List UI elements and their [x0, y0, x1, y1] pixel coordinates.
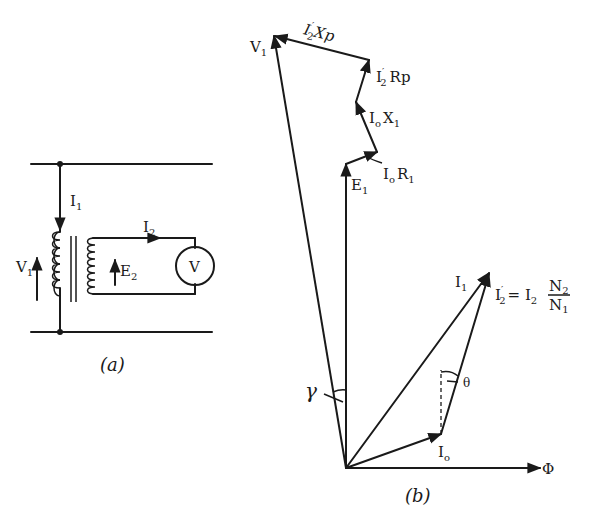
i1-phasor	[346, 273, 489, 468]
label-i0: Io	[438, 443, 450, 463]
label-theta: θ	[463, 376, 470, 390]
i0r1-leader	[366, 156, 382, 163]
caption-b: (b)	[405, 485, 431, 506]
caption-a: (a)	[100, 354, 125, 375]
label-v1-b: V1	[249, 38, 267, 58]
theta-arc	[441, 372, 458, 377]
label-e1: E1	[351, 176, 368, 196]
transformer-figure: V I1 I2 V1 E2 (a)	[0, 0, 592, 531]
v1-phasor	[274, 36, 346, 468]
gamma-arc	[333, 390, 346, 392]
label-i2-prime-equation: I′2= I2	[495, 284, 537, 306]
fraction-numerator: N2	[549, 277, 569, 296]
label-e2: E2	[120, 262, 137, 282]
label-v1: V1	[15, 258, 33, 278]
i2-prime-phasor	[441, 274, 489, 434]
voltmeter-label: V	[188, 258, 201, 276]
label-i2: I2	[143, 218, 155, 238]
phasor-diagram-b: V1 I′2Xp I′2Rp IoX1 IoR1 E1 I1 I′2= I2 N…	[249, 18, 570, 506]
i2rp-phasor	[356, 60, 369, 102]
label-i0x1: IoX1	[369, 109, 400, 129]
label-i0r1: IoR1	[383, 165, 415, 185]
secondary-coil	[88, 238, 96, 294]
label-i1: I1	[70, 192, 82, 212]
label-gamma: γ	[305, 379, 317, 403]
i0-phasor	[346, 434, 441, 468]
fraction-denominator: N1	[549, 296, 569, 315]
theta-leader	[447, 381, 458, 382]
label-i2rp: I′2Rp	[376, 66, 411, 88]
i0r1-phasor	[346, 152, 377, 164]
label-i1-b: I1	[455, 273, 467, 293]
circuit-diagram-a: V I1 I2 V1 E2 (a)	[15, 161, 214, 375]
label-phi: Φ	[542, 460, 554, 478]
